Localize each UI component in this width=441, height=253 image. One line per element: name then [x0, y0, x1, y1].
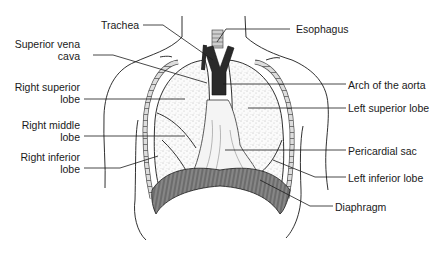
lung-anatomy-diagram: Trachea Superior vena cava Right superio… [0, 0, 441, 253]
label-right-middle-lobe-line2: lobe [0, 131, 80, 143]
label-right-superior-lobe-line1: Right superior [0, 81, 80, 93]
label-right-superior-lobe-line2: lobe [0, 93, 80, 105]
diaphragm-muscle [152, 168, 290, 214]
label-left-inferior-lobe: Left inferior lobe [348, 172, 423, 184]
label-arch-of-aorta: Arch of the aorta [348, 79, 426, 91]
label-left-superior-lobe: Left superior lobe [348, 102, 429, 114]
label-right-inferior-lobe-line2: lobe [0, 163, 80, 175]
label-superior-vena-cava-line2: cava [0, 50, 80, 62]
label-right-middle-lobe-line1: Right middle [0, 119, 80, 131]
label-diaphragm: Diaphragm [335, 201, 386, 213]
label-superior-vena-cava-line1: Superior vena [0, 38, 80, 50]
label-pericardial-sac: Pericardial sac [348, 145, 417, 157]
label-esophagus: Esophagus [296, 23, 349, 35]
label-trachea: Trachea [101, 19, 139, 31]
label-right-inferior-lobe-line1: Right inferior [0, 151, 80, 163]
